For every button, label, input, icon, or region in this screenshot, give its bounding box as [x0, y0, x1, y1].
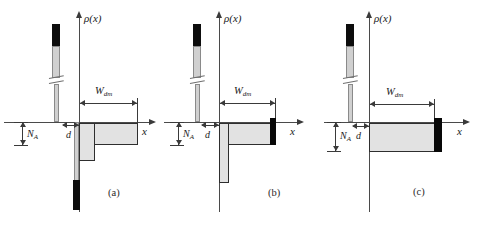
rho-axis-arrow-b	[216, 11, 222, 18]
wdm-dim-arrow-left-a	[80, 100, 85, 106]
wdm-dim-arrow-left-b	[220, 100, 225, 106]
na-ref-line-bottom-b	[170, 145, 184, 146]
na-ref-line-top-a	[14, 122, 28, 123]
x-axis-label-c: x	[457, 125, 462, 137]
wdm-dim-line-c	[370, 104, 435, 105]
na-label-b: NA	[183, 128, 194, 141]
gate-sheet-charge-spike-c	[346, 24, 354, 122]
oxide-charge-spike-a	[73, 122, 80, 210]
figure-canvas: ρ(x) x Wdm	[0, 0, 478, 226]
wdm-label-a: Wdm	[95, 85, 112, 98]
na-ref-line-bottom-c	[327, 151, 341, 152]
rho-axis-c	[369, 17, 370, 212]
inversion-sheet-charge-c	[434, 118, 442, 152]
wdm-dim-arrow-left-c	[370, 101, 375, 107]
x-axis-arrow-b	[297, 119, 304, 125]
axis-break-symbol-a	[49, 74, 63, 88]
d-label-a: d	[66, 129, 71, 140]
wdm-label-sub-b: dm	[243, 90, 252, 98]
panel-a: ρ(x) x Wdm	[0, 0, 160, 226]
x-axis-arrow-a	[149, 119, 156, 125]
d-dim-arrow-left-b	[201, 122, 206, 128]
oxide-charge-stem-a	[74, 122, 79, 184]
wdm-label-sub-a: dm	[104, 90, 113, 98]
rho-axis-label-c: ρ(x)	[374, 12, 392, 24]
d-dim-arrow-right-c	[364, 123, 369, 129]
gate-sheet-charge-spike-b	[193, 24, 201, 122]
wdm-label-main-c: W	[386, 86, 395, 97]
d-dim-arrow-left-a	[62, 122, 67, 128]
d-dim-arrow-right-b	[214, 122, 219, 128]
gate-sheet-charge-tip-a	[52, 24, 60, 47]
na-ref-line-bottom-a	[14, 145, 28, 146]
wdm-label-b: Wdm	[234, 85, 251, 98]
panel-c: ρ(x) x Wdm NA	[320, 0, 478, 226]
inversion-sheet-charge-b	[270, 118, 276, 145]
d-label-c: d	[356, 130, 361, 141]
x-axis-arrow-c	[463, 119, 470, 125]
na-label-main-a: N	[27, 128, 34, 139]
na-ref-line-top-c	[327, 122, 341, 123]
rho-axis-label-a: ρ(x)	[84, 12, 102, 24]
depletion-block-step-b	[219, 123, 229, 183]
gate-sheet-charge-tip-c	[346, 24, 354, 47]
gate-sheet-charge-stem-c	[348, 84, 353, 122]
na-label-sub-a: A	[34, 133, 38, 141]
gate-sheet-charge-tip-b	[193, 24, 201, 47]
axis-break-symbol-b	[190, 74, 204, 88]
gate-sheet-charge-stem-b	[195, 84, 200, 122]
na-label-main-b: N	[183, 128, 190, 139]
gate-sheet-charge-stem-a	[54, 84, 59, 122]
na-label-sub-b: A	[190, 133, 194, 141]
d-label-b: d	[205, 129, 210, 140]
gate-sheet-charge-spike-a	[52, 24, 60, 122]
na-label-sub-c: A	[347, 135, 351, 143]
wdm-label-c: Wdm	[386, 86, 403, 99]
d-dim-arrow-right-a	[74, 122, 79, 128]
rho-axis-label-b: ρ(x)	[224, 12, 242, 24]
panel-caption-c: (c)	[413, 186, 425, 197]
depletion-block-step-a	[79, 123, 95, 161]
x-axis-label-b: x	[290, 125, 295, 137]
wdm-label-main-b: W	[234, 85, 243, 96]
wdm-dim-line-a	[80, 103, 138, 104]
rho-axis-arrow-c	[366, 11, 372, 18]
depletion-block-c	[369, 123, 442, 152]
axis-break-symbol-c	[343, 74, 357, 88]
wdm-label-sub-c: dm	[395, 91, 404, 99]
rho-axis-arrow-a	[76, 11, 82, 18]
na-label-main-c: N	[340, 130, 347, 141]
wdm-tick-right-a	[137, 98, 138, 124]
na-label-a: NA	[27, 128, 38, 141]
oxide-charge-tip-a	[73, 180, 80, 210]
panel-caption-b: (b)	[268, 187, 280, 198]
na-ref-line-top-b	[170, 122, 184, 123]
wdm-dim-line-b	[220, 103, 276, 104]
wdm-label-main-a: W	[95, 85, 104, 96]
x-axis-label-a: x	[142, 125, 147, 137]
panel-b: ρ(x) x Wdm NA	[160, 0, 320, 226]
na-label-c: NA	[340, 130, 351, 143]
d-dim-arrow-left-c	[352, 123, 357, 129]
panel-caption-a: (a)	[108, 187, 120, 198]
